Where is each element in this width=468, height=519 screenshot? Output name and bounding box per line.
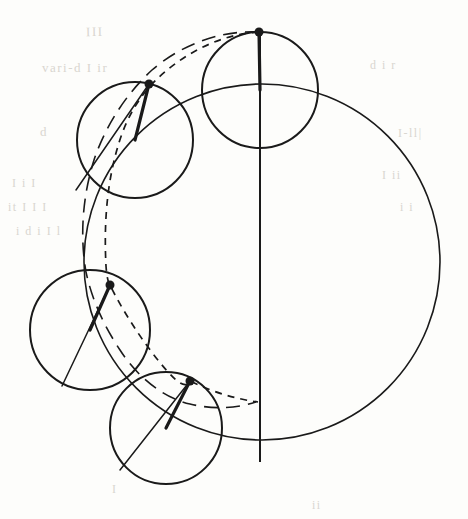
chord-bottom bbox=[120, 381, 190, 470]
rolling-circle-upper-left-group bbox=[77, 80, 193, 199]
base-circle-layer bbox=[84, 32, 440, 462]
rolling-circle-bottom-group bbox=[110, 372, 222, 484]
geometric-diagram bbox=[0, 0, 468, 519]
chord-line-layer bbox=[62, 84, 190, 470]
rolling-circle-top-marker-dot bbox=[255, 28, 264, 37]
rolling-circle-lower-left-marker-dot bbox=[106, 281, 115, 290]
rolling-circle-bottom-radius-line bbox=[166, 381, 190, 428]
rolling-circle-upper-left-marker-dot bbox=[145, 80, 154, 89]
rolling-circle-top-radius-line bbox=[259, 32, 260, 90]
figure-canvas: Rolling circle construction A small circ… bbox=[0, 0, 468, 519]
traced-path-dashed bbox=[105, 32, 259, 402]
rolling-circle-lower-left-radius-line bbox=[90, 285, 110, 330]
large-base-circle bbox=[84, 84, 440, 440]
rolling-circle-layer bbox=[30, 28, 318, 485]
rolling-circle-bottom-marker-dot bbox=[186, 377, 195, 386]
